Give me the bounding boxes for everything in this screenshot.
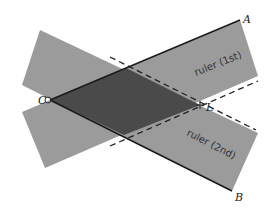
label-c: C (38, 94, 47, 107)
label-l: L (205, 101, 213, 114)
label-a: A (242, 13, 251, 26)
label-b: B (234, 191, 243, 204)
angle-bisection-diagram: A B C L ruler (1st) ruler (2nd) (0, 0, 274, 216)
